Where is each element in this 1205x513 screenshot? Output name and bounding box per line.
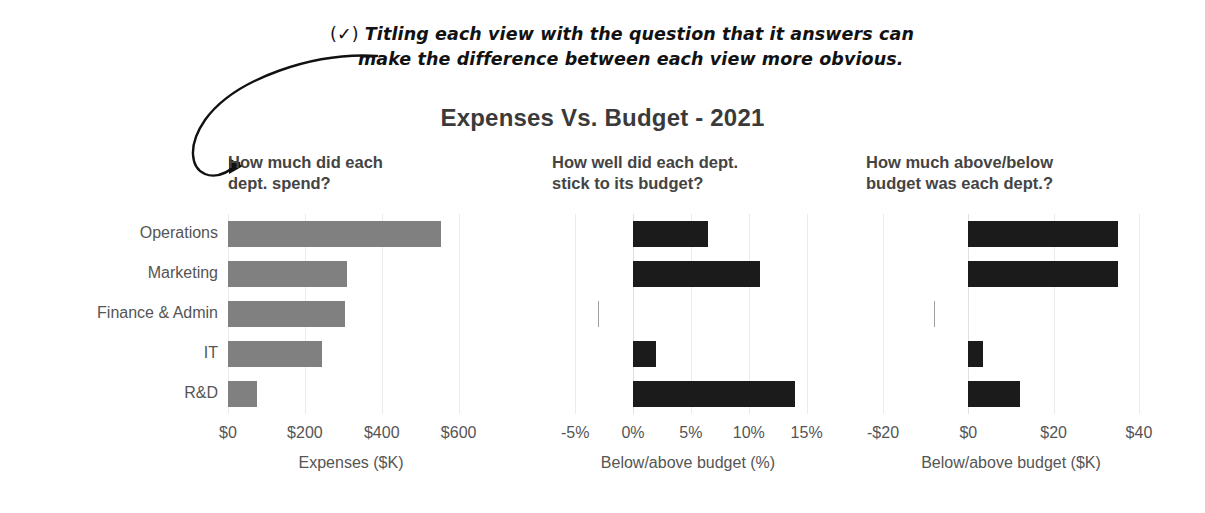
x-axis-label: Below/above budget (%) [552, 454, 824, 472]
bar [228, 261, 347, 287]
annotation-line-1: Titling each view with the question that… [365, 24, 914, 44]
panel-title-expenses: How much did each dept. spend? [228, 152, 383, 194]
x-tick-label: $0 [959, 424, 977, 442]
y-category-label: Operations [0, 224, 218, 242]
panel-expenses: How much did each dept. spend? [228, 152, 383, 194]
annotation-line-2: make the difference between each view mo… [358, 47, 930, 72]
bar [633, 341, 656, 367]
bar [633, 221, 708, 247]
bar [228, 221, 441, 247]
y-category-label: Finance & Admin [0, 304, 218, 322]
x-tick-label: -$20 [867, 424, 899, 442]
panel-budget-pct: How well did each dept. stick to its bud… [552, 152, 738, 194]
bar [968, 261, 1117, 287]
x-tick-label: $0 [219, 424, 237, 442]
bar [598, 301, 599, 327]
annotation-note: (✓) Titling each view with the question … [330, 22, 930, 72]
panel-title-budget-pct: How well did each dept. stick to its bud… [552, 152, 738, 194]
y-category-label: Marketing [0, 264, 218, 282]
x-tick-label: 15% [791, 424, 823, 442]
x-tick-label: $200 [287, 424, 323, 442]
plot-budget-dollars: -$20$0$20$40Below/above budget ($K) [866, 214, 1156, 414]
x-tick-label: 5% [679, 424, 702, 442]
bar [633, 261, 760, 287]
x-axis-label: Expenses ($K) [228, 454, 474, 472]
bar [228, 301, 345, 327]
bar [968, 381, 1019, 407]
x-tick-label: 0% [621, 424, 644, 442]
x-tick-label: $40 [1126, 424, 1153, 442]
plot-budget-pct: -5%0%5%10%15%Below/above budget (%) [552, 214, 824, 414]
x-tick-label: $600 [441, 424, 477, 442]
gridline [459, 214, 460, 414]
bar [968, 341, 983, 367]
gridline [1139, 214, 1140, 414]
x-tick-label: $400 [364, 424, 400, 442]
x-tick-label: -5% [561, 424, 589, 442]
x-tick-label: 10% [733, 424, 765, 442]
bar [228, 341, 322, 367]
bar [633, 381, 795, 407]
bar [228, 381, 257, 407]
bar [934, 301, 935, 327]
bar [968, 221, 1117, 247]
checkmark-icon: (✓) [330, 24, 359, 44]
y-category-label: IT [0, 344, 218, 362]
page-title: Expenses Vs. Budget - 2021 [0, 104, 1205, 132]
gridline [807, 214, 808, 414]
gridline [883, 214, 884, 414]
gridline [575, 214, 576, 414]
x-tick-label: $20 [1040, 424, 1067, 442]
panel-title-budget-dollars: How much above/below budget was each dep… [866, 152, 1053, 194]
figure-canvas: (✓) Titling each view with the question … [0, 0, 1205, 513]
x-axis-label: Below/above budget ($K) [866, 454, 1156, 472]
plot-expenses: $0$200$400$600Expenses ($K) [228, 214, 474, 414]
panel-budget-dollars: How much above/below budget was each dep… [866, 152, 1053, 194]
y-category-label: R&D [0, 384, 218, 402]
